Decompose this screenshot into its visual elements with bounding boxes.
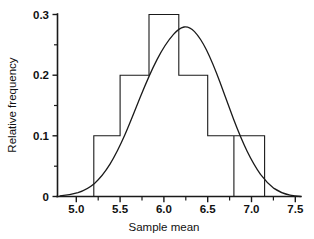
x-tick-label: 7.0 [244,203,260,215]
histogram-outline [94,15,265,197]
x-tick-label: 6.0 [156,203,172,215]
y-tick-label: 0.1 [33,130,50,142]
x-tick-label: 5.5 [112,203,129,215]
y-tick-label: 0 [43,191,49,203]
x-tick-label: 6.5 [200,203,217,215]
y-tick-label: 0.2 [33,69,49,81]
y-axis-title: Relative frequency [6,57,18,152]
chart-canvas: 5.0 5.5 6.0 6.5 7.0 7.5 0 0.1 0.2 0.3 Sa… [0,0,314,239]
x-tick-label: 7.5 [287,203,304,215]
histogram-figure: 5.0 5.5 6.0 6.5 7.0 7.5 0 0.1 0.2 0.3 Sa… [0,0,314,239]
y-tick-label: 0.3 [33,9,49,21]
x-axis-title: Sample mean [129,221,200,233]
x-tick-label: 5.0 [68,203,84,215]
